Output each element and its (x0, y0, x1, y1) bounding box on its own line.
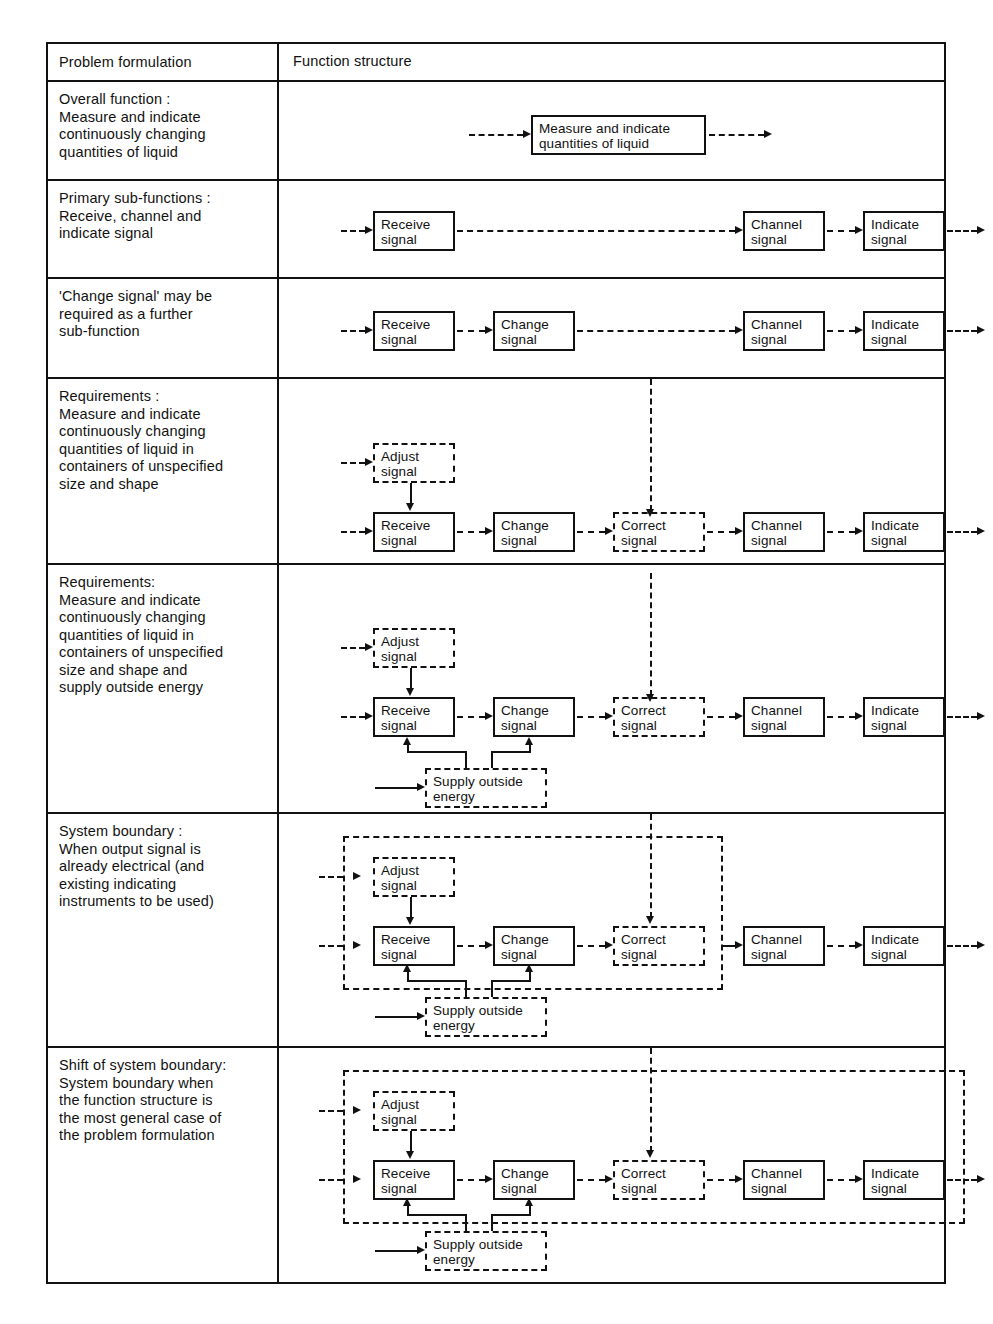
flow-line-channel-to-indicate (827, 330, 855, 332)
row-label-requirements-2: Requirements: Measure and indicate conti… (59, 574, 269, 697)
arrowhead-supply-to-receive (403, 737, 411, 745)
block-correct-signal: Correct signal (613, 697, 705, 737)
row-label-cell: Shift of system boundary: System boundar… (48, 1048, 277, 1282)
arrowhead-supply-in (417, 1012, 425, 1020)
connector-supply-to-change (529, 1206, 531, 1216)
arrowhead-channel (735, 326, 743, 334)
block-indicate-signal: Indicate signal (863, 1160, 945, 1200)
function-structure-table: Problem formulation Function structure O… (46, 42, 946, 1284)
connector-supply-to-receive (407, 1206, 409, 1216)
arrowhead-change (485, 527, 493, 535)
connector-adjust-to-receive (410, 897, 412, 919)
connector-adjust-to-receive (410, 483, 412, 505)
block-adjust-signal: Adjust signal (373, 443, 455, 483)
arrowhead-out (977, 941, 985, 949)
row-diagram-cell: Receive signal Change signal Channel sig… (279, 279, 944, 377)
block-correct-signal: Correct signal (613, 512, 705, 552)
arrowhead-in (365, 226, 373, 234)
arrowhead-correct-in (646, 694, 654, 702)
block-change-signal: Change signal (493, 697, 575, 737)
flow-line-receive-to-change (457, 1179, 485, 1181)
block-change-signal: Change signal (493, 311, 575, 351)
connector-supply-right-riser (491, 1214, 493, 1232)
flow-line-supply-in (375, 1250, 417, 1252)
flow-line-channel-to-indicate (827, 716, 855, 718)
flow-line-correct-to-channel (723, 945, 735, 947)
flow-line-correct-in (650, 379, 652, 511)
arrowhead-supply-to-change (525, 964, 533, 972)
arrowhead-correct-in (646, 916, 654, 924)
flow-line-out (947, 330, 977, 332)
table-header-row: Problem formulation Function structure (48, 44, 944, 82)
arrowhead-adjust-to-receive (406, 1151, 414, 1159)
arrowhead-supply-to-receive (403, 964, 411, 972)
arrowhead-change (485, 712, 493, 720)
block-supply-outside-energy: Supply outside energy (425, 997, 547, 1037)
flow-line-in (319, 945, 343, 947)
block-indicate-signal: Indicate signal (863, 512, 945, 552)
connector-supply-right-riser (491, 980, 493, 998)
row-diagram-cell: Adjust signal Receive signal Change sign… (279, 379, 944, 563)
block-receive-signal: Receive signal (373, 1160, 455, 1200)
row-diagram-cell: Receive signal Channel signal Indicate s… (279, 181, 944, 277)
arrowhead-correct (605, 527, 613, 535)
flow-line-supply-in (375, 787, 417, 789)
arrowhead-indicate (855, 712, 863, 720)
flow-line-out (947, 1179, 977, 1181)
flow-line-supply-in (375, 1016, 417, 1018)
connector-supply-left-run (407, 980, 467, 982)
flow-line-correct-in (650, 814, 652, 918)
arrowhead-supply-in (417, 783, 425, 791)
connector-supply-left-run (407, 1214, 467, 1216)
flow-line-correct-to-channel (707, 716, 735, 718)
block-receive-signal: Receive signal (373, 512, 455, 552)
flow-line-receive-to-change (457, 945, 485, 947)
header-cell-left: Problem formulation (48, 44, 277, 80)
block-indicate-signal: Indicate signal (863, 311, 945, 351)
row-label-shift-of-system-boundary: Shift of system boundary: System boundar… (59, 1057, 269, 1145)
block-supply-outside-energy: Supply outside energy (425, 1231, 547, 1271)
flow-line-receive-to-change (457, 716, 485, 718)
arrowhead-correct-in (646, 509, 654, 517)
arrowhead-in (523, 130, 531, 138)
block-receive-signal: Receive signal (373, 926, 455, 966)
arrowhead-channel (735, 1175, 743, 1183)
flow-line-channel-to-indicate (827, 230, 855, 232)
arrowhead-correct (605, 712, 613, 720)
arrowhead-change (485, 941, 493, 949)
header-problem-formulation: Problem formulation (59, 54, 269, 72)
table-row: Requirements : Measure and indicate cont… (48, 379, 944, 565)
flow-line-adjust-in (319, 1110, 343, 1112)
flow-line-out (709, 134, 764, 136)
block-change-signal: Change signal (493, 926, 575, 966)
flow-line-channel-to-indicate (827, 1179, 855, 1181)
flow-line-change-to-correct (577, 945, 605, 947)
connector-adjust-to-receive (410, 1131, 412, 1153)
row-diagram-cell: Adjust signal Receive signal Change sign… (279, 814, 944, 1046)
flow-line-change-to-channel (577, 330, 735, 332)
row-label-change-signal: 'Change signal' may be required as a fur… (59, 288, 269, 341)
arrowhead-adjust-to-receive (406, 917, 414, 925)
flow-line-channel-to-indicate (827, 531, 855, 533)
arrowhead-adjust-in (353, 1106, 361, 1114)
arrowhead-out (977, 326, 985, 334)
arrowhead-out (977, 226, 985, 234)
arrowhead-out (764, 130, 772, 138)
connector-supply-right-run (491, 1214, 531, 1216)
connector-supply-right-run (491, 751, 531, 753)
row-label-cell: Requirements: Measure and indicate conti… (48, 565, 277, 812)
arrowhead-indicate (855, 326, 863, 334)
table-row: Primary sub-functions : Receive, channel… (48, 181, 944, 279)
block-receive-signal: Receive signal (373, 311, 455, 351)
block-receive-signal: Receive signal (373, 211, 455, 251)
arrowhead-in (365, 527, 373, 535)
arrowhead-supply-to-receive (403, 1198, 411, 1206)
diagram-page: Problem formulation Function structure O… (0, 0, 993, 1324)
connector-supply-to-change (529, 972, 531, 982)
flow-line-change-to-correct (577, 1179, 605, 1181)
arrowhead-correct (605, 941, 613, 949)
flow-line-out (947, 531, 977, 533)
flow-line-out (947, 230, 977, 232)
block-channel-signal: Channel signal (743, 1160, 825, 1200)
header-function-structure: Function structure (293, 53, 944, 71)
